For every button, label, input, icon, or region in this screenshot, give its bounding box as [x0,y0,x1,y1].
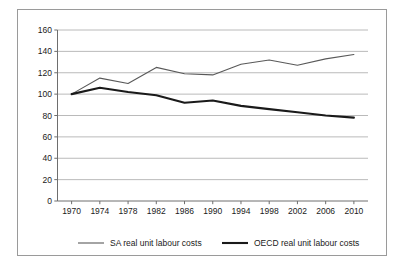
data-series-group [72,55,354,118]
y-tick-label: 100 [38,89,52,99]
x-tick-label: 1982 [147,206,166,216]
legend-label-0: SA real unit labour costs [110,238,202,248]
x-tick-label: 1998 [260,206,279,216]
x-tick-label: 2010 [344,206,363,216]
x-axis-labels-group: 1970197419781982198619901994199820022006… [62,206,363,216]
chart-legend: SA real unit labour costsOECD real unit … [78,238,359,248]
x-tick-label: 1986 [175,206,194,216]
y-tick-label: 140 [38,46,52,56]
y-tick-label: 160 [38,25,52,35]
x-tick-label: 2002 [288,206,307,216]
y-tick-label: 120 [38,68,52,78]
x-tick-label: 1994 [232,206,251,216]
y-tick-label: 40 [43,153,53,163]
y-tick-label: 0 [47,196,52,206]
line-chart: 020406080100120140160 197019741978198219… [0,0,403,273]
y-tick-label: 60 [43,132,53,142]
y-tick-label: 80 [43,111,53,121]
y-axis-labels-group: 020406080100120140160 [38,25,52,206]
series-line-1 [72,88,354,118]
gridlines-group [58,30,369,180]
y-tick-label: 20 [43,175,53,185]
legend-label-1: OECD real unit labour costs [254,238,359,248]
x-tick-label: 1978 [119,206,138,216]
series-line-0 [72,55,354,95]
x-tick-label: 1974 [90,206,109,216]
x-tick-label: 1970 [62,206,81,216]
x-tick-label: 1990 [203,206,222,216]
figure-container: 020406080100120140160 197019741978198219… [0,0,403,273]
x-tick-label: 2006 [316,206,335,216]
